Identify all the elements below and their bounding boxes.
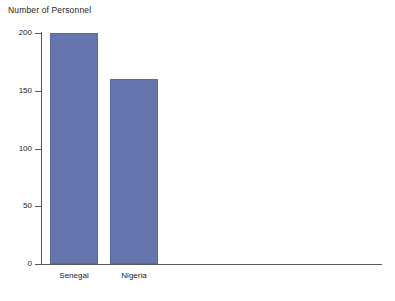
y-axis-tick-label-wrap: 150 (0, 91, 32, 92)
x-axis-line (42, 264, 382, 265)
y-axis-tick-label: 100 (19, 145, 32, 153)
y-axis-tick-label: 50 (23, 202, 32, 210)
y-axis-tick (35, 264, 42, 265)
y-axis-tick-label-wrap: 200 (0, 33, 32, 34)
bar (110, 79, 158, 264)
x-axis-label: Senegal (50, 272, 98, 280)
y-axis-tick-label: 150 (19, 87, 32, 95)
chart-title: Number of Personnel (8, 5, 91, 15)
y-axis-tick (35, 91, 42, 92)
bar-chart: Number of Personnel 050100150200 Senegal… (0, 0, 395, 301)
y-axis-tick (35, 206, 42, 207)
y-axis-tick (35, 33, 42, 34)
y-axis-tick-label-wrap: 50 (0, 206, 32, 207)
y-axis-tick-label-wrap: 0 (0, 264, 32, 265)
y-axis-tick-label: 200 (19, 29, 32, 37)
y-axis-tick-label: 0 (28, 260, 32, 268)
bar (50, 33, 98, 264)
y-axis-tick (35, 149, 42, 150)
x-axis-label: Nigeria (110, 272, 158, 280)
y-axis-tick-label-wrap: 100 (0, 149, 32, 150)
